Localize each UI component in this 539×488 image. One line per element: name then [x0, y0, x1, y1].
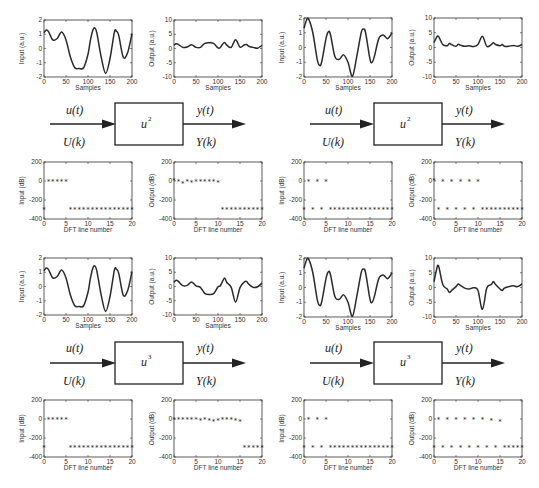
data-point: * — [207, 178, 211, 186]
data-point: * — [64, 416, 68, 424]
data-point: * — [77, 444, 81, 452]
y-tick-label: 5 — [428, 29, 432, 36]
data-point: * — [373, 206, 377, 214]
y-tick-label: -200 — [29, 434, 42, 441]
input-time-label: u(t) — [66, 341, 83, 355]
y-axis-label: Output (a.u.) — [408, 269, 416, 306]
x-tick-label: 200 — [127, 78, 138, 85]
data-point: * — [225, 416, 229, 424]
data-point: * — [485, 444, 489, 452]
data-point: * — [390, 444, 394, 452]
axes-frame — [44, 20, 132, 77]
y-tick-label: -10 — [163, 73, 173, 80]
data-point: * — [432, 177, 436, 185]
plot-r4-left-output: 05101520-400-2000200DFT line numberOutpu… — [148, 396, 266, 471]
data-point: * — [95, 444, 99, 452]
block-label-exponent: 2 — [148, 115, 152, 123]
input-arrowhead — [360, 359, 374, 368]
x-tick-label: 50 — [62, 316, 70, 323]
y-tick-label: -1 — [36, 297, 42, 304]
x-tick-label: 0 — [432, 220, 436, 227]
plot-r2-right-output: 05101520-400-2000200DFT line numberOutpu… — [408, 158, 526, 233]
y-tick-label: 10 — [425, 14, 433, 21]
x-tick-label: 0 — [42, 316, 46, 323]
data-point: * — [485, 206, 489, 214]
y-tick-label: 0 — [168, 283, 172, 290]
y-tick-label: 10 — [165, 254, 173, 261]
data-point: * — [203, 416, 207, 424]
data-point: * — [307, 416, 311, 424]
y-tick-label: 2 — [38, 254, 42, 261]
block-label-exponent: 3 — [148, 353, 152, 361]
x-tick-label: 50 — [322, 78, 330, 85]
data-point: * — [459, 178, 463, 186]
data-point: * — [212, 418, 216, 426]
y-tick-label: -400 — [289, 215, 302, 222]
data-point: * — [221, 206, 225, 214]
data-point: * — [256, 206, 260, 214]
y-axis-label: Output (a.u.) — [148, 30, 156, 67]
data-point: * — [203, 178, 207, 186]
x-tick-label: 20 — [518, 220, 526, 227]
data-point: * — [445, 416, 449, 424]
data-point: * — [51, 178, 55, 186]
plot-r3-left-input: 050100150200-2-1012SamplesInput (a.u.) — [18, 254, 138, 330]
data-point: * — [221, 416, 225, 424]
data-point: * — [91, 206, 95, 214]
data-point: * — [342, 444, 346, 452]
y-tick-label: 1 — [38, 268, 42, 275]
y-tick-label: -10 — [423, 73, 433, 80]
output-time-label: y(t) — [455, 341, 473, 355]
plot-r2-right-input: 05101520-400-2000200DFT line numberInput… — [278, 158, 396, 233]
data-point: * — [47, 178, 51, 186]
x-tick-label: 0 — [42, 458, 46, 465]
y-tick-label: 0 — [298, 44, 302, 51]
data-point: * — [99, 206, 103, 214]
data-point: * — [234, 206, 238, 214]
data-point: * — [450, 444, 454, 452]
output-time-label: y(t) — [196, 103, 214, 117]
data-point: * — [234, 417, 238, 425]
output-time-label: y(t) — [455, 103, 473, 117]
x-tick-label: 150 — [235, 316, 246, 323]
data-point: * — [467, 178, 471, 186]
x-axis-label: DFT line number — [324, 464, 373, 471]
data-point: * — [454, 416, 458, 424]
data-point: * — [229, 206, 233, 214]
x-tick-label: 200 — [257, 78, 268, 85]
y-tick-label: 0 — [168, 45, 172, 52]
data-point: * — [177, 416, 181, 424]
y-tick-label: -400 — [159, 453, 172, 460]
x-axis-label: Samples — [75, 84, 101, 92]
plot-r4-right-output: 05101520-400-2000200DFT line numberOutpu… — [408, 396, 526, 471]
y-tick-label: -400 — [289, 453, 302, 460]
y-tick-label: -2 — [296, 73, 302, 80]
axes-frame — [304, 18, 392, 77]
data-point: * — [42, 206, 46, 214]
data-point: * — [91, 444, 95, 452]
x-tick-label: 0 — [302, 318, 306, 325]
y-tick-label: -400 — [419, 215, 432, 222]
x-axis-label: Samples — [205, 84, 231, 92]
y-axis-label: Input (a.u.) — [278, 272, 286, 303]
data-point: * — [463, 416, 467, 424]
y-tick-label: -400 — [29, 453, 42, 460]
data-point: * — [324, 416, 328, 424]
y-tick-label: -400 — [29, 215, 42, 222]
block-label-base: u — [141, 355, 147, 369]
x-tick-label: 20 — [388, 458, 396, 465]
data-curve — [174, 278, 262, 302]
y-tick-label: -5 — [166, 59, 172, 66]
input-time-label: u(t) — [325, 341, 342, 355]
output-arrowhead — [232, 359, 246, 368]
data-point: * — [503, 444, 507, 452]
data-point: * — [476, 178, 480, 186]
block-diagram-left-square: u(t) U(k) u 2 y(t) Y(k) — [50, 103, 246, 149]
input-freq-label: U(k) — [63, 374, 85, 388]
y-tick-label: 0 — [38, 415, 42, 422]
data-point: * — [432, 444, 436, 452]
data-point: * — [494, 206, 498, 214]
data-point: * — [251, 444, 255, 452]
x-tick-label: 20 — [388, 220, 396, 227]
data-point: * — [320, 206, 324, 214]
